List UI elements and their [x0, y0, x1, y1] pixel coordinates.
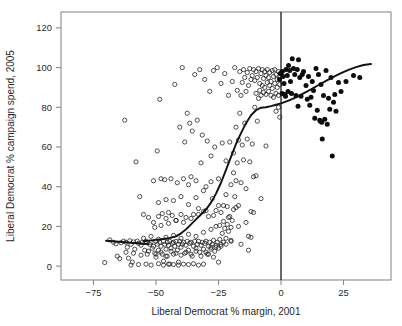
- data-point-open: [169, 177, 173, 181]
- data-point-open: [216, 177, 220, 181]
- data-point-open: [219, 81, 223, 85]
- data-point-open: [254, 174, 258, 178]
- data-point-open: [196, 206, 200, 210]
- data-point-filled: [296, 104, 301, 109]
- x-axis-label: Liberal Democrat % margin, 2001: [152, 306, 301, 317]
- data-point-open: [201, 230, 205, 234]
- data-point-open: [198, 67, 202, 71]
- data-point-open: [139, 253, 143, 257]
- data-point-open: [151, 220, 155, 224]
- data-point-open: [124, 250, 128, 254]
- data-point-open: [238, 111, 242, 115]
- data-point-filled: [331, 100, 336, 105]
- data-point-open: [225, 222, 229, 226]
- data-point-filled: [325, 122, 330, 127]
- data-point-open: [191, 262, 195, 266]
- data-point-filled: [330, 153, 335, 158]
- data-point-open: [226, 215, 230, 219]
- data-point-open: [201, 189, 205, 193]
- data-point-filled: [327, 107, 332, 112]
- data-point-open: [126, 256, 130, 260]
- data-point-open: [220, 141, 224, 145]
- data-point-open: [125, 245, 129, 249]
- data-point-open: [249, 235, 253, 239]
- data-point-open: [155, 149, 159, 153]
- data-point-open: [246, 248, 250, 252]
- data-point-filled: [336, 80, 341, 85]
- data-point-open: [156, 214, 160, 218]
- data-point-open: [244, 220, 248, 224]
- data-point-filled: [288, 79, 293, 84]
- data-point-open: [151, 179, 155, 183]
- data-point-open: [171, 240, 175, 244]
- data-point-open: [199, 254, 203, 258]
- data-point-filled: [277, 77, 282, 82]
- data-point-open: [199, 161, 203, 165]
- data-point-open: [134, 160, 138, 164]
- data-point-filled: [290, 56, 295, 61]
- x-tick-label: −75: [86, 287, 102, 298]
- data-point-open: [159, 223, 163, 227]
- data-point-filled: [344, 79, 349, 84]
- data-point-open: [200, 133, 204, 137]
- data-point-open: [186, 232, 190, 236]
- data-point-open: [214, 208, 218, 212]
- data-point-open: [201, 262, 205, 266]
- data-point-open: [231, 171, 235, 175]
- data-point-open: [230, 79, 234, 83]
- data-point-open: [224, 159, 228, 163]
- y-tick-label: 20: [42, 221, 52, 232]
- data-point-open: [264, 144, 268, 148]
- data-point-filled: [351, 73, 356, 78]
- y-tick-label: 40: [42, 181, 52, 192]
- data-point-filled: [310, 79, 315, 84]
- data-point-open: [186, 202, 190, 206]
- data-point-open: [228, 214, 232, 218]
- Liberal Democrat held seats (filled circles): [277, 56, 362, 158]
- data-point-open: [164, 198, 168, 202]
- data-point-open: [180, 65, 184, 69]
- data-point-filled: [306, 74, 311, 79]
- data-point-open: [276, 105, 280, 109]
- data-point-open: [164, 247, 168, 251]
- data-point-filled: [332, 92, 337, 97]
- data-point-open: [249, 209, 253, 213]
- data-point-open: [181, 177, 185, 181]
- data-point-open: [160, 211, 164, 215]
- data-point-open: [254, 91, 258, 95]
- data-point-open: [239, 242, 243, 246]
- scatter-plot: −75−50−25025020406080100120 Liberal Demo…: [0, 0, 402, 326]
- data-point-open: [239, 181, 243, 185]
- data-point-open: [255, 75, 259, 79]
- data-point-open: [193, 72, 197, 76]
- data-point-filled: [357, 75, 362, 80]
- data-point-open: [146, 215, 150, 219]
- data-point-open: [248, 160, 252, 164]
- data-point-open: [203, 77, 207, 81]
- data-point-open: [266, 89, 270, 93]
- data-point-open: [219, 210, 223, 214]
- data-point-open: [184, 215, 188, 219]
- data-point-filled: [280, 91, 285, 96]
- data-point-open: [216, 203, 220, 207]
- data-point-open: [191, 212, 195, 216]
- data-point-open: [166, 210, 170, 214]
- data-point-filled: [304, 83, 309, 88]
- data-point-open: [156, 262, 160, 266]
- data-point-open: [153, 225, 157, 229]
- data-point-open: [218, 237, 222, 241]
- data-point-open: [118, 256, 122, 260]
- data-point-open: [185, 111, 189, 115]
- data-point-open: [194, 179, 198, 183]
- data-point-open: [181, 220, 185, 224]
- data-point-open: [123, 118, 127, 122]
- data-point-open: [224, 236, 228, 240]
- data-point-open: [244, 187, 248, 191]
- data-point-open: [115, 254, 119, 258]
- data-point-open: [270, 86, 274, 90]
- data-point-open: [209, 227, 213, 231]
- data-point-open: [209, 180, 213, 184]
- data-point-open: [144, 262, 148, 266]
- y-tick-label: 0: [47, 261, 52, 272]
- data-point-open: [149, 263, 153, 267]
